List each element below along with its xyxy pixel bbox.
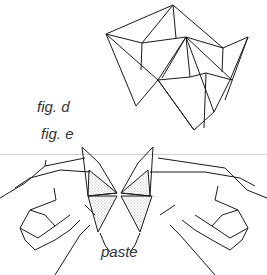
paste-label: paste <box>101 243 138 260</box>
fig-d-label: fig. d <box>37 98 70 115</box>
fig-d-folded-model <box>106 5 248 130</box>
fig-e-label: fig. e <box>41 125 74 142</box>
